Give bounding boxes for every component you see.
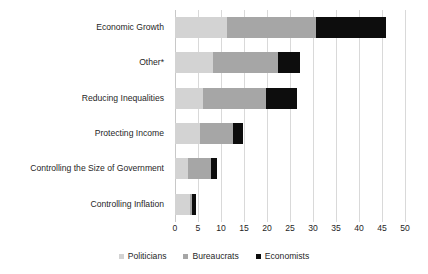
y-axis-label-other: Other* — [139, 58, 164, 67]
bar-segment-politicians — [175, 17, 227, 38]
bar-segment-politicians — [175, 52, 213, 73]
legend-swatch-bureaucrats-icon — [183, 254, 188, 259]
bar-segment-bureaucrats — [203, 88, 266, 109]
legend-label-bureaucrats: Bureaucrats — [192, 252, 238, 261]
bar-segment-economists — [266, 88, 297, 109]
x-tick-5: 5 — [196, 224, 201, 233]
bar-row-other — [175, 45, 405, 80]
bar-stack — [175, 52, 300, 73]
legend-label-politicians: Politicians — [128, 252, 167, 261]
bar-segment-economists — [211, 158, 217, 179]
x-tick-20: 20 — [262, 224, 272, 233]
bar-row-reducing-inequalities — [175, 81, 405, 116]
bar-segment-economists — [316, 17, 386, 38]
bar-stack — [175, 194, 196, 215]
x-tick-30: 30 — [308, 224, 318, 233]
bar-row-controlling-inflation — [175, 187, 405, 222]
legend-swatch-economists-icon — [256, 254, 261, 259]
bar-row-economic-growth — [175, 10, 405, 45]
y-axis-category-labels: Economic Growth Other* Reducing Inequali… — [0, 0, 170, 212]
bar-segment-economists — [233, 123, 243, 144]
bar-segment-politicians — [175, 123, 200, 144]
bar-segment-economists — [278, 52, 300, 73]
bar-segment-politicians — [175, 88, 203, 109]
bar-segment-politicians — [175, 158, 188, 179]
bar-segment-bureaucrats — [213, 52, 278, 73]
bar-segment-bureaucrats — [188, 158, 211, 179]
bar-row-protecting-income — [175, 116, 405, 151]
plot-area — [175, 10, 405, 222]
x-tick-25: 25 — [285, 224, 295, 233]
bar-segment-politicians — [175, 194, 190, 215]
bar-stack — [175, 123, 243, 144]
y-axis-label-controlling-size-of-government: Controlling the Size of Government — [30, 164, 164, 173]
bar-stack — [175, 158, 217, 179]
legend-item-economists: Economists — [256, 252, 309, 261]
bar-segment-economists — [192, 194, 196, 215]
x-tick-45: 45 — [377, 224, 387, 233]
x-tick-50: 50 — [400, 224, 410, 233]
y-axis-label-protecting-income: Protecting Income — [95, 129, 164, 138]
gridline-50 — [405, 10, 406, 222]
y-axis-label-reducing-inequalities: Reducing Inequalities — [82, 94, 164, 103]
bar-segment-bureaucrats — [200, 123, 233, 144]
stacked-bar-chart: Economic Growth Other* Reducing Inequali… — [0, 0, 428, 274]
x-tick-10: 10 — [216, 224, 226, 233]
y-axis-label-controlling-inflation: Controlling Inflation — [90, 200, 164, 209]
x-axis-tick-labels: 0 5 10 15 20 25 30 35 40 45 50 — [175, 224, 405, 238]
y-axis-label-economic-growth: Economic Growth — [96, 23, 164, 32]
x-tick-40: 40 — [354, 224, 364, 233]
x-tick-35: 35 — [331, 224, 341, 233]
legend-item-bureaucrats: Bureaucrats — [183, 252, 238, 261]
legend-swatch-politicians-icon — [119, 254, 124, 259]
legend-label-economists: Economists — [265, 252, 309, 261]
bar-segment-bureaucrats — [227, 17, 316, 38]
bar-stack — [175, 17, 386, 38]
legend-item-politicians: Politicians — [119, 252, 167, 261]
x-tick-15: 15 — [239, 224, 249, 233]
bar-stack — [175, 88, 297, 109]
bar-row-controlling-size-of-government — [175, 151, 405, 186]
chart-legend: Politicians Bureaucrats Economists — [0, 252, 428, 261]
x-tick-0: 0 — [173, 224, 178, 233]
